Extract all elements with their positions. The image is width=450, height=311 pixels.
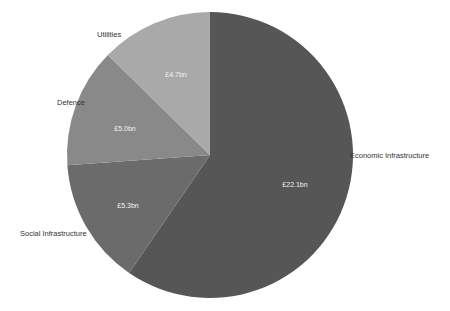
label-utilities: Utilities bbox=[97, 30, 121, 39]
value-social-infrastructure: £5.3bn bbox=[117, 202, 138, 209]
label-social-infrastructure: Social Infrastructure bbox=[20, 229, 87, 238]
value-economic-infrastructure: £22.1bn bbox=[282, 181, 307, 188]
label-economic-infrastructure: Economic Infrastructure bbox=[350, 151, 429, 160]
label-defence: Defence bbox=[57, 98, 85, 107]
value-defence: £5.0bn bbox=[114, 125, 135, 132]
value-utilities: £4.7bn bbox=[165, 71, 186, 78]
